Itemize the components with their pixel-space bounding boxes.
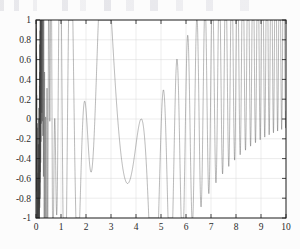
y-tick-label: 0.4 <box>19 75 31 85</box>
x-tick-label: 2 <box>84 222 89 232</box>
plot-canvas: 012345678910 10.80.60.40.20-0.2-0.4-0.6-… <box>0 0 300 249</box>
y-tick-label: -0.2 <box>16 134 31 144</box>
x-tick-label: 8 <box>234 222 239 232</box>
y-tick-label: 1 <box>26 15 31 25</box>
y-tick-label: -0.6 <box>16 174 31 184</box>
y-axis-tick-labels: 10.80.60.40.20-0.2-0.4-0.6-0.8-1 <box>16 15 31 223</box>
y-tick-label: -1 <box>23 213 31 223</box>
x-tick-label: 5 <box>159 222 164 232</box>
y-tick-label: -0.8 <box>16 194 31 204</box>
x-tick-label: 10 <box>281 222 291 232</box>
y-tick-label: 0.2 <box>19 95 31 105</box>
y-tick-label: 0 <box>26 114 31 124</box>
x-tick-label: 4 <box>134 222 139 232</box>
x-tick-label: 6 <box>184 222 189 232</box>
y-tick-label: -0.4 <box>16 154 31 164</box>
x-axis-tick-labels: 012345678910 <box>34 222 291 232</box>
x-tick-label: 7 <box>209 222 214 232</box>
x-tick-label: 0 <box>34 222 39 232</box>
y-tick-label: 0.8 <box>19 35 31 45</box>
x-tick-label: 9 <box>259 222 264 232</box>
y-tick-label: 0.6 <box>19 55 31 65</box>
x-tick-label: 1 <box>59 222 64 232</box>
x-tick-label: 3 <box>109 222 114 232</box>
figure-container: 012345678910 10.80.60.40.20-0.2-0.4-0.6-… <box>0 0 300 249</box>
